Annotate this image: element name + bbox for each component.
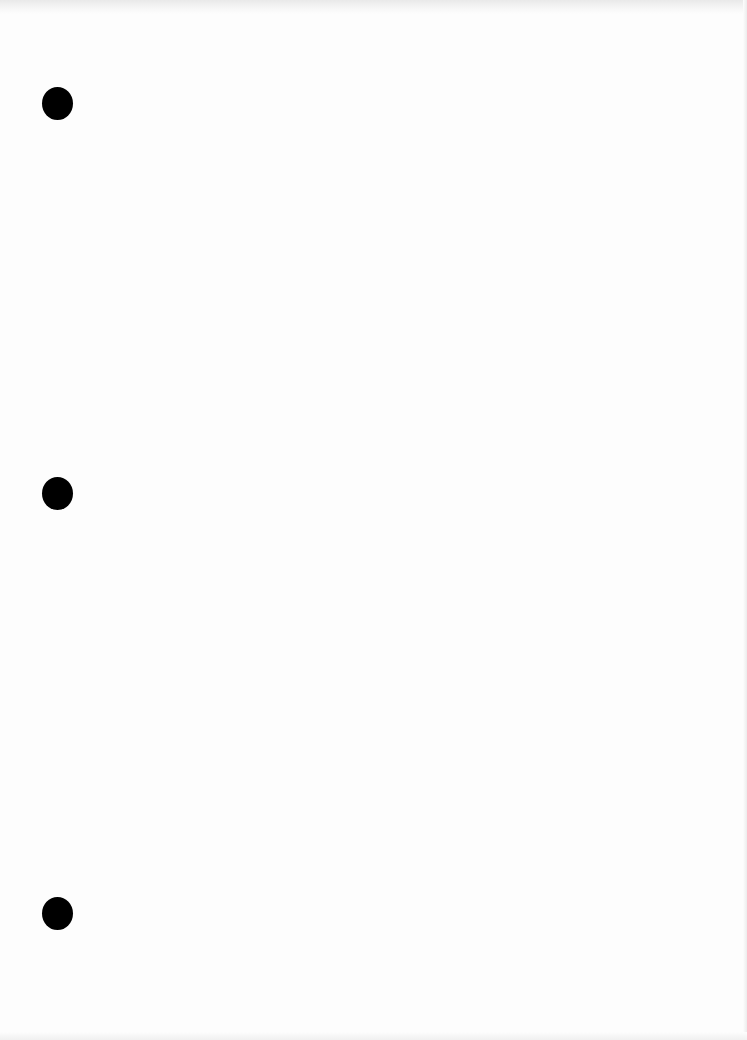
blank-page: [0, 0, 747, 1040]
punch-hole-bottom: [42, 897, 73, 930]
punch-hole-top: [42, 87, 73, 120]
punch-hole-middle: [42, 477, 73, 510]
page-edge-right: [743, 0, 747, 1040]
page-edge-bottom: [0, 1032, 747, 1040]
